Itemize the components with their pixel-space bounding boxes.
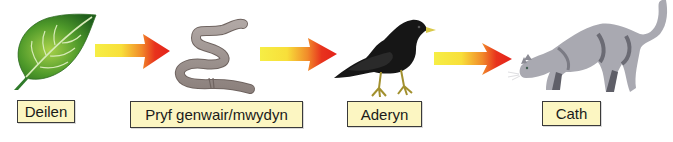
arrow-icon xyxy=(434,43,512,75)
label-cat: Cath xyxy=(542,101,601,126)
earthworm-icon xyxy=(180,24,250,89)
label-earthworm: Pryf genwair/mwydyn xyxy=(130,101,303,128)
food-chain-diagram: Deilen Pryf genwair/mwydyn Aderyn Cath xyxy=(0,0,673,142)
arrow-icon xyxy=(95,34,170,69)
arrow-icon xyxy=(260,38,337,71)
label-bird: Aderyn xyxy=(347,101,422,127)
leaf-icon xyxy=(14,14,96,90)
bird-icon xyxy=(334,20,436,97)
cat-icon xyxy=(508,0,667,92)
label-leaves: Deilen xyxy=(17,100,75,123)
